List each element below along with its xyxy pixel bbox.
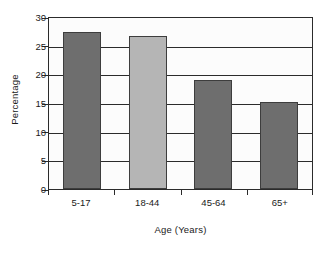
y-tick-label-15: 15: [20, 99, 46, 109]
bar-5-17[interactable]: [63, 32, 101, 189]
y-tick-label-30: 30: [20, 13, 46, 23]
x-tick-mark-3: [247, 190, 248, 195]
bar-series: [49, 18, 312, 189]
x-tick-mark-1: [114, 190, 115, 195]
x-tick-label-65-plus: 65+: [245, 197, 315, 208]
x-tick-label-45-64: 45-64: [179, 197, 249, 208]
x-tick-label-18-44: 18-44: [112, 197, 182, 208]
bar-chart: Percentage 30 25 20 15 10 5 0 5-17: [0, 0, 328, 253]
y-axis-title: Percentage: [9, 55, 20, 145]
y-tick-label-5: 5: [20, 156, 46, 166]
y-tick-label-25: 25: [20, 42, 46, 52]
y-tick-label-20: 20: [20, 70, 46, 80]
y-tick-label-10: 10: [20, 128, 46, 138]
x-axis-title: Age (Years): [48, 224, 313, 235]
bar-18-44[interactable]: [129, 36, 167, 189]
bar-slot-2: [181, 18, 247, 189]
x-tick-mark-0: [48, 190, 49, 195]
x-tick-mark-4: [312, 190, 313, 195]
bar-45-64[interactable]: [194, 80, 232, 189]
bar-65-plus[interactable]: [260, 102, 298, 189]
bar-slot-1: [115, 18, 181, 189]
x-tick-mark-2: [181, 190, 182, 195]
y-tick-label-0: 0: [20, 185, 46, 195]
x-tick-label-5-17: 5-17: [46, 197, 116, 208]
bar-slot-0: [49, 18, 115, 189]
bar-slot-3: [246, 18, 312, 189]
